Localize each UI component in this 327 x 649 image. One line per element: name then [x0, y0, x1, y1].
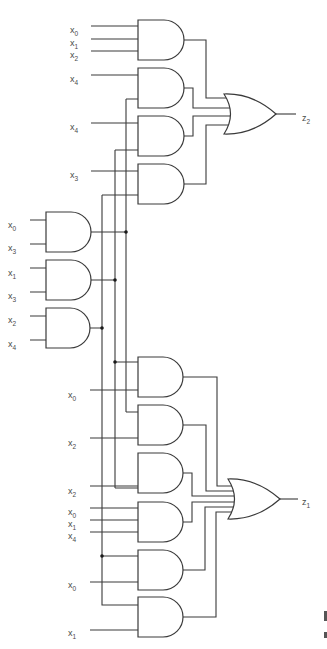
wire — [90, 232, 126, 328]
wire — [91, 75, 138, 99]
input-label: x1 — [70, 38, 79, 50]
input-label: x2 — [68, 486, 77, 498]
wire — [91, 123, 138, 150]
wire — [184, 116, 230, 136]
and-gate-icon — [138, 357, 183, 397]
and-gate-icon — [138, 116, 184, 156]
input-label: x4 — [68, 531, 77, 543]
junction-dot — [113, 360, 117, 364]
wire — [90, 362, 138, 488]
input-label: x3 — [70, 170, 79, 182]
input-label: x0 — [70, 25, 79, 37]
and-gate-icon — [46, 212, 91, 252]
wire — [184, 125, 228, 184]
logic-circuit-diagram: x0x1x2x4x4x3x0x3x1x3x2x4x0x2x2x0x1x4x0x1… — [0, 0, 327, 649]
wire — [183, 512, 232, 617]
and-gate-icon — [138, 502, 183, 542]
input-label: x4 — [8, 339, 17, 351]
and-gate-icon — [138, 164, 184, 204]
wire — [183, 425, 233, 491]
junction-dot — [100, 554, 104, 558]
and-gate-icon — [138, 453, 183, 493]
output-label: z1 — [302, 497, 311, 509]
input-label: x2 — [68, 438, 77, 450]
wire — [102, 99, 126, 597]
input-label: x1 — [68, 628, 77, 640]
input-label: x3 — [8, 291, 17, 303]
and-gate-icon — [138, 550, 183, 590]
wire — [91, 26, 138, 51]
and-gate-icon — [46, 260, 91, 300]
or-gate-icon — [228, 479, 280, 519]
input-label: x0 — [8, 220, 17, 232]
junction-dots — [100, 230, 128, 558]
and-gate-icon — [138, 20, 184, 60]
junction-dot — [113, 278, 117, 282]
and-gate-icon — [138, 68, 184, 108]
wire — [183, 377, 232, 486]
wire — [90, 508, 138, 532]
input-label: x4 — [70, 74, 79, 86]
input-label: x0 — [68, 507, 77, 519]
input-label: x0 — [68, 390, 77, 402]
wire — [183, 473, 234, 496]
and-gate-icon — [138, 405, 183, 445]
input-label: x2 — [70, 50, 79, 62]
or-gate-icon — [224, 94, 276, 134]
input-label: x0 — [68, 580, 77, 592]
output-label: z2 — [302, 113, 311, 125]
wire — [90, 556, 138, 630]
input-label: x2 — [8, 315, 17, 327]
gates — [46, 20, 280, 637]
and-gate-icon — [46, 308, 90, 348]
wire — [184, 40, 228, 98]
wire — [183, 507, 233, 570]
input-label: x1 — [8, 268, 17, 280]
junction-dot — [124, 230, 128, 234]
and-gate-icon — [138, 597, 183, 637]
input-label: x4 — [70, 122, 79, 134]
input-label: x3 — [8, 243, 17, 255]
junction-dot — [100, 326, 104, 330]
wire — [30, 220, 46, 340]
input-label: x1 — [68, 519, 77, 531]
